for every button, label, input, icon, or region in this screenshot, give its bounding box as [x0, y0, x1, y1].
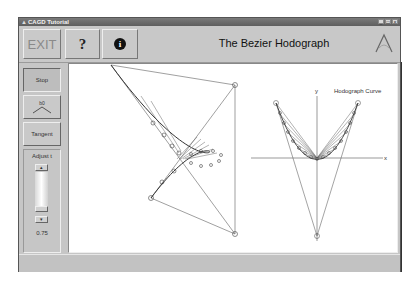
toolbar: EXIT ? i The Bezier Hodograph	[19, 26, 400, 63]
app-icon: ▲	[21, 19, 27, 25]
hodograph-button[interactable]: b0	[23, 95, 61, 119]
t-slider[interactable]: ▴ ▾	[35, 164, 49, 224]
slider-down-button[interactable]: ▾	[35, 216, 48, 223]
x-axis-label: x	[384, 155, 387, 161]
maximize-button[interactable]: □	[385, 19, 391, 24]
slider-up-button[interactable]: ▴	[35, 164, 48, 171]
window-controls: _ □ ×	[378, 19, 398, 24]
left-panel: Stop b0 Tangent Adjust t ▴ ▾ 0.75	[19, 63, 67, 253]
app-window: ▲ CAGD Tutorial _ □ × EXIT ? i The Bezie…	[18, 17, 401, 272]
adjust-value: 0.75	[24, 230, 60, 236]
adjust-group: Adjust t ▴ ▾ 0.75	[23, 149, 61, 253]
info-button[interactable]: i	[102, 29, 138, 59]
status-bar	[19, 254, 400, 272]
bezier-curve	[111, 65, 210, 198]
adjust-label: Adjust t	[24, 153, 60, 159]
stop-button[interactable]: Stop	[23, 68, 61, 92]
page-divider	[401, 62, 402, 272]
title-bar[interactable]: ▲ CAGD Tutorial _ □ ×	[19, 18, 400, 26]
info-icon: i	[114, 38, 126, 50]
help-button[interactable]: ?	[65, 29, 100, 59]
drawing-canvas[interactable]: Hodograph Curve y x	[68, 63, 398, 253]
close-button[interactable]: ×	[392, 19, 398, 24]
exit-button[interactable]: EXIT	[23, 29, 61, 59]
page-title: The Bezier Hodograph	[169, 37, 379, 49]
hodograph-plot	[251, 96, 383, 241]
minimize-button[interactable]: _	[378, 19, 384, 24]
y-axis-label: y	[315, 88, 318, 94]
slider-thumb[interactable]	[35, 206, 48, 212]
hodograph-label: Hodograph Curve	[334, 88, 381, 94]
hodograph-icon	[32, 106, 52, 114]
cagd-logo-icon	[374, 32, 394, 54]
window-title: CAGD Tutorial	[28, 18, 69, 26]
tangent-button[interactable]: Tangent	[23, 122, 61, 146]
slider-track[interactable]	[35, 172, 48, 207]
